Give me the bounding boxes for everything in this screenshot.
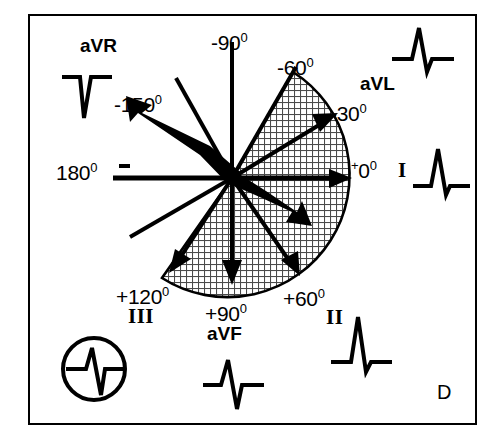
angle-label-plus-90: +900	[205, 303, 247, 324]
figure-canvas: -900 -600 -300 +00 +600 +900 +1200 -1500…	[0, 0, 504, 443]
angle-label-plus-60: +600	[283, 288, 325, 309]
lead-label-aVL: aVL	[360, 74, 395, 93]
lead-label-I: I	[398, 160, 407, 181]
lead-label-II: II	[326, 307, 343, 328]
angle-label-180: 1800	[56, 162, 97, 183]
ecg-trace-aVR	[62, 77, 112, 118]
negative-polarity-marker	[119, 164, 130, 168]
lead-label-aVF: aVF	[207, 324, 242, 343]
angle-label-minus-90: -900	[211, 32, 247, 53]
ecg-trace-III-circle	[63, 338, 125, 400]
angle-label-minus-60: -600	[277, 57, 313, 78]
ecg-trace-aVF	[203, 360, 264, 409]
panel-letter: D	[437, 382, 451, 402]
hexaxial-diagram	[0, 0, 504, 443]
ecg-trace-I	[413, 149, 470, 195]
angle-label-minus-150: -1500	[114, 94, 162, 115]
lead-label-III: III	[128, 306, 154, 327]
lead-label-aVR: aVR	[80, 36, 117, 55]
ecg-trace-aVL	[392, 28, 454, 72]
angle-label-minus-30: -300	[330, 103, 366, 124]
angle-label-plus-0: +00	[351, 160, 377, 181]
